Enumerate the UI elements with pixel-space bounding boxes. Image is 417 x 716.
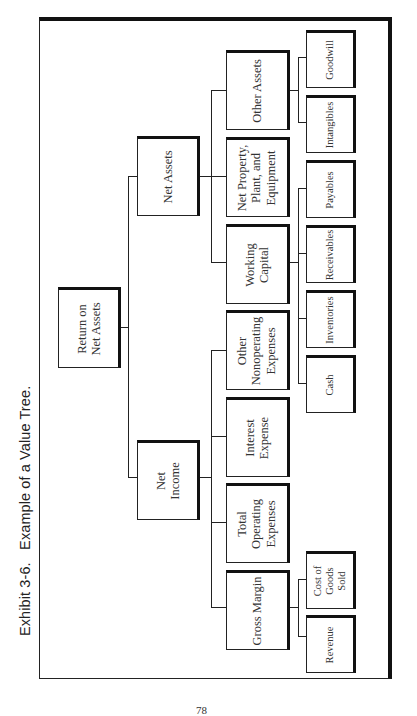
node-label: Intangibles <box>324 102 336 149</box>
node-total-operating-expenses: Total Operating Expenses <box>226 483 290 563</box>
connector <box>211 607 227 608</box>
connector <box>211 176 227 177</box>
node-label: Inventories <box>324 296 336 343</box>
node-net-income: Net Income <box>137 440 200 520</box>
node-net-assets: Net Assets <box>137 136 200 216</box>
node-label: Receivables <box>324 230 336 281</box>
page-number: 78 <box>196 704 207 716</box>
node-working-capital: Working Capital <box>226 224 290 304</box>
node-return-on-net-assets: Return on Net Assets <box>58 287 121 368</box>
exhibit-caption: Exhibit 3-6. Example of a Value Tree. <box>17 386 33 636</box>
node-interest-expense: Interest Expense <box>226 397 290 477</box>
node-goodwill: Goodwill <box>306 30 356 88</box>
node-receivables: Receivables <box>306 225 356 283</box>
connector <box>128 176 129 478</box>
node-label: Total Operating Expenses <box>235 499 278 549</box>
node-payables: Payables <box>306 160 356 218</box>
connector <box>211 436 227 437</box>
connector <box>211 522 227 523</box>
node-inventories: Inventories <box>306 290 356 348</box>
node-label: Interest Expense <box>243 417 272 459</box>
node-intangibles: Intangibles <box>306 95 356 153</box>
node-label: Net Property, Plant, and Equipment <box>235 145 278 212</box>
node-label: Net Income <box>153 462 182 499</box>
node-revenue: Revenue <box>306 615 356 673</box>
node-label: Cash <box>324 375 336 396</box>
node-gross-margin: Gross Margin <box>226 570 290 650</box>
node-cost-of-goods-sold: Cost of Goods Sold <box>306 551 356 609</box>
node-label: Revenue <box>324 627 336 664</box>
node-other-nonoperating-expenses: Other Nonoperating Expenses <box>226 310 290 390</box>
node-label: Net Assets <box>160 150 174 203</box>
connector <box>211 350 212 607</box>
node-label: Working Capital <box>243 243 272 286</box>
connector <box>211 350 227 351</box>
node-label: Gross Margin <box>250 577 264 646</box>
node-net-ppe: Net Property, Plant, and Equipment <box>226 137 290 217</box>
connector <box>298 57 299 123</box>
node-cash: Cash <box>306 355 356 413</box>
node-other-assets: Other Assets <box>226 50 290 130</box>
node-label: Cost of Goods Sold <box>312 566 348 597</box>
connector <box>298 579 299 637</box>
node-label: Payables <box>324 171 336 208</box>
connector <box>298 188 299 384</box>
node-label: Goodwill <box>324 40 336 80</box>
node-label: Return on Net Assets <box>74 302 103 355</box>
node-label: Other Nonoperating Expenses <box>235 317 278 386</box>
connector <box>211 262 227 263</box>
connector <box>211 90 227 91</box>
node-label: Other Assets <box>250 59 264 123</box>
